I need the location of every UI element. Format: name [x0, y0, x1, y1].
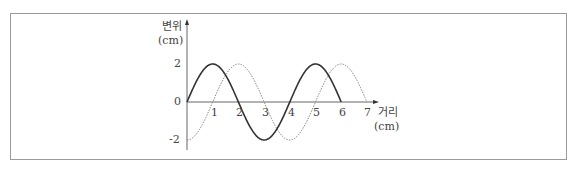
wave-chart	[0, 0, 582, 176]
x-tick-4: 4	[288, 107, 295, 118]
x-axis-label: 거리	[378, 107, 398, 118]
y-axis-label: 변위	[162, 21, 182, 32]
x-tick-6: 6	[339, 107, 346, 118]
x-tick-7: 7	[364, 107, 371, 118]
x-tick-1: 1	[211, 107, 218, 118]
y-tick-0: 0	[174, 96, 181, 107]
y-axis-unit: (cm)	[158, 35, 183, 46]
x-tick-3: 3	[262, 107, 269, 118]
y-tick-neg2: -2	[169, 134, 180, 145]
x-axis-arrow-icon	[373, 100, 379, 104]
y-axis-arrow-icon	[185, 19, 189, 25]
x-tick-5: 5	[313, 107, 320, 118]
x-axis-unit: (cm)	[374, 121, 399, 132]
y-tick-2: 2	[174, 58, 181, 69]
x-tick-2: 2	[236, 107, 243, 118]
